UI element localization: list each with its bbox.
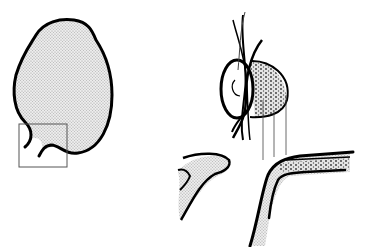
diagram-canvas <box>0 0 365 247</box>
tube-cross-section <box>221 12 288 160</box>
bent-layered-wall <box>250 152 353 246</box>
curved-shaded-shape <box>178 154 230 220</box>
left-panel-blob <box>14 20 112 167</box>
